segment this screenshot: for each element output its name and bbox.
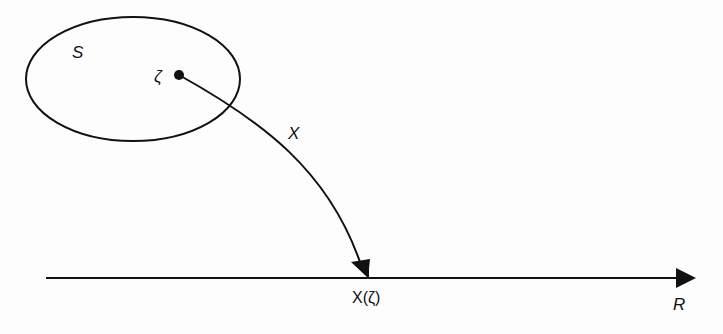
real-line-label: R [673,295,685,314]
random-variable-diagram: S ζ X X(ζ) R [0,0,723,334]
outcome-label: ζ [154,67,163,86]
mapping-label: X [287,124,300,143]
real-line-arrowhead [676,268,696,288]
image-label: X(ζ) [352,289,380,307]
sample-space-label: S [72,43,84,62]
mapping-arrow [179,75,362,268]
sample-space-ellipse [26,17,240,141]
